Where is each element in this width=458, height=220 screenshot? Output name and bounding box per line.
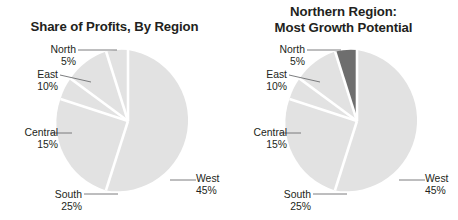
pie-svg-right: [229, 0, 458, 220]
pie-label-north: North 5%: [24, 44, 76, 69]
pie-label-east: East 10%: [235, 69, 287, 94]
pie-chart-figure: Share of Profits, By Region: [0, 0, 458, 220]
pie-label-south-value: 25%: [30, 201, 82, 213]
pie-label-east-value: 10%: [235, 81, 287, 93]
pie-label-east-value: 10%: [6, 81, 58, 93]
chart-panel-northern-region: Northern Region: Most Growth Potential: [229, 0, 458, 220]
pie-label-central: Central 15%: [2, 127, 58, 152]
pie-slices-right: [285, 50, 417, 192]
pie-label-north-value: 5%: [253, 56, 305, 68]
pie-label-north-value: 5%: [24, 56, 76, 68]
pie-label-west-name: West: [425, 173, 458, 185]
pie-label-central-value: 15%: [2, 139, 58, 151]
pie-label-south-name: South: [259, 189, 311, 201]
pie-slices-left: [56, 50, 188, 192]
pie-label-east-name: East: [235, 69, 287, 81]
pie-label-central-name: Central: [231, 127, 287, 139]
pie-label-north-name: North: [24, 44, 76, 56]
pie-label-east: East 10%: [6, 69, 58, 94]
pie-label-south-name: South: [30, 189, 82, 201]
pie-label-west-value: 45%: [425, 185, 458, 197]
pie-label-south-value: 25%: [259, 201, 311, 213]
chart-panel-share-of-profits: Share of Profits, By Region: [0, 0, 229, 220]
pie-label-south: South 25%: [30, 189, 82, 214]
pie-label-south: South 25%: [259, 189, 311, 214]
pie-label-central: Central 15%: [231, 127, 287, 152]
pie-svg-left: [0, 0, 229, 220]
pie-label-central-value: 15%: [231, 139, 287, 151]
pie-label-central-name: Central: [2, 127, 58, 139]
pie-label-west: West 45%: [425, 173, 458, 198]
pie-label-north: North 5%: [253, 44, 305, 69]
pie-label-north-name: North: [253, 44, 305, 56]
pie-label-east-name: East: [6, 69, 58, 81]
